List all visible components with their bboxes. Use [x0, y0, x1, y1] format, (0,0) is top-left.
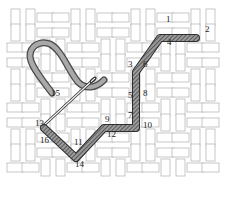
stitch-label: 15 — [51, 88, 61, 98]
canvas-cell — [52, 28, 69, 37]
canvas-cell — [22, 163, 39, 172]
canvas-cell — [191, 129, 200, 146]
stitch-label: 5 — [128, 90, 133, 100]
canvas-cell — [52, 13, 69, 22]
canvas-cell — [112, 13, 129, 22]
canvas-cell — [142, 103, 159, 112]
canvas-cell — [191, 9, 200, 26]
canvas-cell — [7, 43, 24, 52]
canvas-cell — [97, 28, 114, 37]
canvas-cell — [131, 9, 140, 26]
canvas-cell — [67, 43, 84, 52]
canvas-cell — [7, 58, 24, 67]
canvas-cell — [37, 28, 54, 37]
stitch-label: 14 — [75, 159, 85, 169]
canvas-cell — [86, 24, 95, 41]
stitch-label: 2 — [205, 24, 210, 34]
canvas-cell — [187, 163, 204, 172]
canvas-cell — [41, 54, 50, 71]
canvas-cell — [157, 133, 174, 142]
stitch-label: 4 — [167, 37, 172, 47]
canvas-cell — [187, 118, 204, 127]
canvas-cell — [172, 88, 189, 97]
canvas-cell — [26, 129, 35, 146]
canvas-cell — [22, 103, 39, 112]
canvas-cell — [82, 43, 99, 52]
canvas-cell — [161, 54, 170, 71]
canvas-cell — [56, 114, 65, 131]
canvas-cell — [97, 13, 114, 22]
canvas-cell — [191, 69, 200, 86]
canvas-cell — [41, 99, 50, 116]
canvas-cell — [26, 144, 35, 161]
canvas-cell — [11, 69, 20, 86]
canvas-cell — [7, 118, 24, 127]
canvas-cell — [176, 54, 185, 71]
canvas-cell — [116, 54, 125, 71]
canvas-cell — [82, 103, 99, 112]
canvas-cell — [37, 13, 54, 22]
canvas-cell — [41, 159, 50, 176]
canvas-cell — [52, 73, 69, 82]
canvas-cell — [26, 84, 35, 101]
canvas-cell — [11, 129, 20, 146]
canvas-cell — [202, 103, 219, 112]
canvas-cell — [112, 73, 129, 82]
canvas-cell — [116, 39, 125, 56]
canvas-cell — [206, 84, 215, 101]
canvas-cell — [202, 118, 219, 127]
stitch-label: 12 — [107, 129, 116, 139]
canvas-cell — [112, 88, 129, 97]
canvas-cell — [161, 114, 170, 131]
canvas-cell — [142, 163, 159, 172]
stitch-label: 9 — [105, 114, 110, 124]
canvas-cell — [82, 118, 99, 127]
canvas-cell — [191, 144, 200, 161]
canvas-cell — [97, 88, 114, 97]
stitch-label: 13 — [35, 118, 45, 128]
canvas-cell — [172, 13, 189, 22]
canvas-cell — [172, 148, 189, 157]
stitch-label: 3 — [128, 59, 133, 69]
canvas-cell — [206, 69, 215, 86]
canvas-cell — [157, 148, 174, 157]
canvas-cell — [116, 159, 125, 176]
canvas-cell — [97, 148, 114, 157]
stitch-label: 7 — [128, 110, 133, 120]
canvas-cell — [176, 99, 185, 116]
canvas-cell — [67, 118, 84, 127]
canvas-cell — [101, 54, 110, 71]
canvas-cell — [146, 144, 155, 161]
canvas-cell — [82, 163, 99, 172]
stitch-label: 10 — [143, 120, 153, 130]
canvas-cell — [161, 159, 170, 176]
canvas-cell — [191, 84, 200, 101]
canvas-cell — [172, 133, 189, 142]
canvas-cell — [187, 43, 204, 52]
stitch-label: 8 — [143, 88, 148, 98]
canvas-cell — [146, 9, 155, 26]
canvas-cell — [202, 43, 219, 52]
canvas-cell — [202, 163, 219, 172]
canvas-cell — [146, 24, 155, 41]
canvas-cell — [161, 99, 170, 116]
canvas-cell — [7, 103, 24, 112]
canvas-cell — [146, 69, 155, 86]
canvas-cell — [71, 24, 80, 41]
canvas-cell — [157, 88, 174, 97]
canvas-cell — [101, 159, 110, 176]
canvas-cell — [112, 28, 129, 37]
canvas-cell — [82, 58, 99, 67]
canvas-cell — [11, 9, 20, 26]
canvas-cell — [112, 148, 129, 157]
canvas-cell — [56, 159, 65, 176]
stitch-label: 11 — [74, 137, 83, 147]
stitch-label: 16 — [40, 135, 50, 145]
canvas-cell — [172, 73, 189, 82]
canvas-cell — [202, 58, 219, 67]
canvas-cell — [86, 9, 95, 26]
stitch-label: 1 — [166, 14, 171, 24]
canvas-cell — [116, 99, 125, 116]
canvas-cell — [67, 103, 84, 112]
canvas-cell — [26, 9, 35, 26]
